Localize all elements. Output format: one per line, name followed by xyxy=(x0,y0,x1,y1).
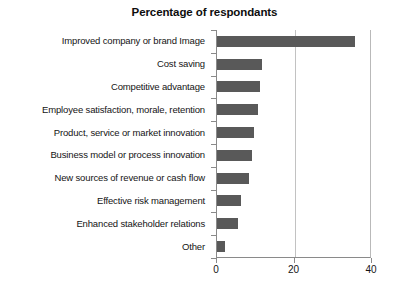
plot-area xyxy=(216,30,371,258)
x-axis-tick-label: 20 xyxy=(288,264,299,275)
bar xyxy=(217,218,238,229)
bar-row xyxy=(217,30,370,53)
x-axis-tick xyxy=(216,258,217,263)
bar xyxy=(217,36,355,47)
category-label: Employee satisfaction, morale, retention xyxy=(0,98,211,121)
x-axis-tick-label: 0 xyxy=(213,264,219,275)
bar-row xyxy=(217,167,370,190)
x-axis-tick-label: 40 xyxy=(365,264,376,275)
bar-row xyxy=(217,121,370,144)
bar xyxy=(217,173,249,184)
bar xyxy=(217,241,225,252)
bar-row xyxy=(217,98,370,121)
y-axis-category-labels: Improved company or brand Image Cost sav… xyxy=(0,30,211,258)
bar-row xyxy=(217,76,370,99)
category-label: New sources of revenue or cash flow xyxy=(0,167,211,190)
bar xyxy=(217,195,241,206)
x-axis-tick xyxy=(371,258,372,263)
category-label: Enhanced stakeholder relations xyxy=(0,212,211,235)
x-axis-tick-marks xyxy=(216,258,372,263)
category-label: Cost saving xyxy=(0,53,211,76)
category-label: Effective risk management xyxy=(0,190,211,213)
bar xyxy=(217,81,260,92)
x-axis-tick-labels: 02040 xyxy=(0,264,409,280)
category-label: Product, service or market innovation xyxy=(0,121,211,144)
bar-row xyxy=(217,235,370,258)
bar xyxy=(217,104,258,115)
category-label: Improved company or brand Image xyxy=(0,30,211,53)
bar-series xyxy=(217,30,370,257)
bar-chart: Percentage of respondants Improved compa… xyxy=(0,0,409,287)
chart-title: Percentage of respondants xyxy=(0,6,409,18)
category-label: Business model or process innovation xyxy=(0,144,211,167)
bar-row xyxy=(217,53,370,76)
category-label: Competitive advantage xyxy=(0,76,211,99)
bar xyxy=(217,150,252,161)
bar xyxy=(217,127,254,138)
bar-row xyxy=(217,212,370,235)
category-label: Other xyxy=(0,235,211,258)
bar-row xyxy=(217,144,370,167)
bar-row xyxy=(217,190,370,213)
bar xyxy=(217,59,262,70)
x-axis-tick xyxy=(294,258,295,263)
